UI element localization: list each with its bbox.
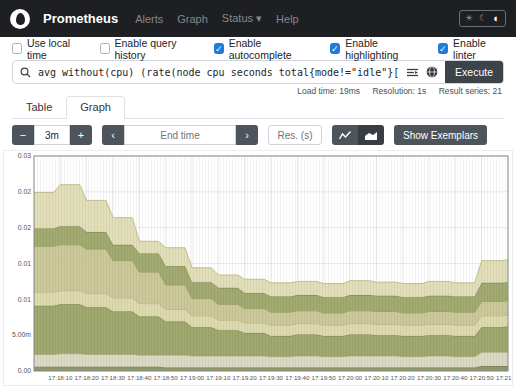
x-tick-label: 17:20:50 xyxy=(470,374,495,381)
y-tick-label: 0.00 xyxy=(18,367,31,374)
query-bar: Execute xyxy=(12,60,504,84)
y-tick-label: 5.00m xyxy=(12,331,31,338)
resolution-input[interactable] xyxy=(268,125,322,145)
checkbox-enable-linter[interactable]: ✓Enable linter xyxy=(438,37,504,61)
nav-item-help[interactable]: Help xyxy=(276,13,299,25)
checkbox-enable-autocomplete[interactable]: ✓Enable autocomplete xyxy=(214,37,316,61)
x-tick-label: 17:19:00 xyxy=(180,374,205,381)
chart-type-group xyxy=(332,125,384,145)
x-tick-label: 17:21:00 xyxy=(496,374,512,381)
x-tick-label: 17:19:20 xyxy=(233,374,258,381)
checkbox-label: Enable highlighting xyxy=(345,37,423,61)
x-tick-label: 17:18:10 xyxy=(48,374,73,381)
x-tick-label: 17:20:20 xyxy=(391,374,416,381)
nav-item-status[interactable]: Status ▾ xyxy=(222,12,262,25)
show-exemplars-button[interactable]: Show Exemplars xyxy=(394,125,487,145)
checkbox-enable-query-history[interactable]: Enable query history xyxy=(100,37,199,61)
checkbox-label: Enable linter xyxy=(453,37,504,61)
checkbox-label: Use local time xyxy=(27,37,85,61)
end-time-input[interactable] xyxy=(124,125,236,145)
x-tick-label: 17:20:10 xyxy=(364,374,389,381)
x-tick-label: 17:20:40 xyxy=(443,374,468,381)
x-tick-label: 17:18:50 xyxy=(154,374,179,381)
y-tick-label: 0.02 xyxy=(18,188,31,195)
range-input[interactable] xyxy=(34,125,70,145)
y-tick-label: 0.03 xyxy=(18,152,31,159)
x-tick-label: 17:18:30 xyxy=(101,374,126,381)
globe-icon[interactable] xyxy=(426,66,438,78)
resolution: Resolution: 1s xyxy=(372,86,426,96)
metrics-explorer-icon[interactable] xyxy=(406,67,419,78)
x-tick-label: 17:18:20 xyxy=(75,374,100,381)
nav-links: AlertsGraphStatus ▾Help xyxy=(135,12,299,25)
next-time-button[interactable]: › xyxy=(236,125,258,145)
nav-item-graph[interactable]: Graph xyxy=(177,13,208,25)
x-tick-label: 17:19:30 xyxy=(259,374,284,381)
theme-toggle-group: ☀☾◐ xyxy=(459,10,506,27)
checkbox-use-local-time[interactable]: Use local time xyxy=(12,37,85,61)
checkbox-label: Enable query history xyxy=(115,37,199,61)
unchecked-box-icon[interactable] xyxy=(100,43,110,54)
graph-panel[interactable]: 0.030.020.020.010.015.00m0.0017:18:1017:… xyxy=(3,150,513,386)
navbar: Prometheus AlertsGraphStatus ▾Help ☀☾◐ xyxy=(0,0,516,37)
query-expression-input[interactable] xyxy=(38,67,399,78)
graph-controls: − + ‹ › Show Exemplars xyxy=(12,125,504,145)
x-tick-label: 17:19:40 xyxy=(285,374,310,381)
zoom-out-button[interactable]: − xyxy=(12,125,34,145)
moon-icon[interactable]: ☾ xyxy=(479,14,487,23)
checked-box-icon[interactable]: ✓ xyxy=(438,43,448,54)
x-tick-label: 17:19:50 xyxy=(312,374,337,381)
hatch-overlay xyxy=(34,156,508,371)
sun-icon[interactable]: ☀ xyxy=(465,14,473,23)
x-tick-label: 17:18:40 xyxy=(127,374,152,381)
search-icon xyxy=(20,67,31,78)
circle-half-icon[interactable]: ◐ xyxy=(493,13,500,24)
x-tick-label: 17:20:30 xyxy=(417,374,442,381)
zoom-in-button[interactable]: + xyxy=(70,125,92,145)
nav-item-alerts[interactable]: Alerts xyxy=(135,13,163,25)
x-tick-label: 17:20:00 xyxy=(338,374,363,381)
checkbox-enable-highlighting[interactable]: ✓Enable highlighting xyxy=(330,37,423,61)
prev-time-button[interactable]: ‹ xyxy=(102,125,124,145)
load-time: Load time: 19ms xyxy=(297,86,360,96)
panel-tabs: TableGraph xyxy=(12,96,504,119)
checked-box-icon[interactable]: ✓ xyxy=(214,43,224,54)
query-stats: Load time: 19ms Resolution: 1s Result se… xyxy=(0,84,516,95)
y-tick-label: 0.01 xyxy=(18,296,31,303)
endtime-group: ‹ › xyxy=(102,125,258,145)
tab-graph[interactable]: Graph xyxy=(66,96,125,119)
result-series: Result series: 21 xyxy=(439,86,502,96)
execute-button[interactable]: Execute xyxy=(445,61,503,83)
y-tick-label: 0.02 xyxy=(18,224,31,231)
prometheus-logo-icon[interactable] xyxy=(10,9,30,29)
stacked-chart-icon[interactable] xyxy=(358,125,384,145)
range-group: − + xyxy=(12,125,92,145)
options-row: Use local timeEnable query history✓Enabl… xyxy=(0,37,516,59)
tab-table[interactable]: Table xyxy=(12,96,66,119)
brand-title[interactable]: Prometheus xyxy=(43,11,118,26)
stacked-area-chart[interactable]: 0.030.020.020.010.015.00m0.0017:18:1017:… xyxy=(4,151,512,383)
y-tick-label: 0.01 xyxy=(18,260,31,267)
line-chart-icon[interactable] xyxy=(332,125,358,145)
x-tick-label: 17:19:10 xyxy=(206,374,231,381)
checked-box-icon[interactable]: ✓ xyxy=(330,43,340,54)
unchecked-box-icon[interactable] xyxy=(12,43,22,54)
flame-icon xyxy=(16,13,25,25)
checkbox-label: Enable autocomplete xyxy=(229,37,316,61)
